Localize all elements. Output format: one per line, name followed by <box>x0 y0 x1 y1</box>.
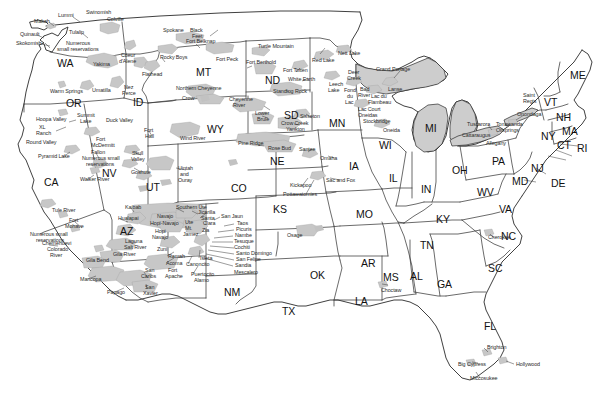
reservation-label: Hualapai <box>118 216 138 222</box>
reservation-label: Fort Belknap <box>186 39 215 45</box>
state-label-tn: TN <box>420 240 434 251</box>
reservation-label: Stockbridge <box>363 119 390 125</box>
state-label-mn: MN <box>329 118 345 129</box>
reservation-label: Onondaga <box>517 112 541 118</box>
reservation-label: Grand Portage <box>376 67 410 73</box>
reservation-label: Rocky Boys <box>160 55 187 61</box>
reservation-label: Flambeau <box>368 100 391 106</box>
state-label-ct: CT <box>557 140 571 151</box>
reservation-label: small reservations <box>57 47 99 53</box>
state-label-ok: OK <box>310 270 325 281</box>
state-label-ks: KS <box>273 204 287 215</box>
reservation-label: Canoncito <box>186 262 209 268</box>
state-label-ma: MA <box>562 126 578 137</box>
reservation-label: Omaha <box>320 156 337 162</box>
state-label-mi: MI <box>425 123 436 134</box>
state-label-ia: IA <box>349 161 359 172</box>
state-label-co: CO <box>231 183 247 194</box>
reservation-label: Miccosukee <box>470 376 497 382</box>
reservation-label: Navajo <box>157 214 173 220</box>
reservation-label: River <box>358 93 370 99</box>
reservation-label: Alamo <box>194 278 209 284</box>
reservation-label: Choctaw <box>381 288 401 294</box>
reservation-label: Salt River <box>124 245 146 251</box>
reservation-label: Warm Springs <box>50 89 83 95</box>
reservation-label: Cattaraugus <box>462 133 490 139</box>
reservation-label: Tulalip <box>69 30 84 36</box>
reservation-label: Standing Rock <box>273 89 307 95</box>
reservation-label: San Jaun <box>221 214 243 220</box>
state-label-tx: TX <box>282 306 295 317</box>
reservation-label: Crow <box>182 96 194 102</box>
reservation-label: Fort Berthold <box>246 60 276 66</box>
reservation-label: Ramah <box>168 254 185 260</box>
state-label-vt: VT <box>544 97 557 108</box>
reservation-label: Fort Peck <box>216 57 238 63</box>
state-label-az: AZ <box>120 226 133 237</box>
state-label-ut: UT <box>146 182 160 193</box>
reservation-label: Northern Cheyenne <box>176 86 221 92</box>
reservation-label: Kaibab <box>125 205 141 211</box>
reservation-label: Perce <box>122 91 136 97</box>
state-label-il: IL <box>389 173 398 184</box>
us-indian-reservations-map: .bd{fill:none;stroke:#3a3a3a;stroke-widt… <box>0 0 616 400</box>
state-label-sc: SC <box>488 263 502 274</box>
state-label-de: DE <box>551 178 565 189</box>
state-label-al: AL <box>410 271 423 282</box>
state-label-in: IN <box>421 184 431 195</box>
state-label-wy: WY <box>207 124 224 135</box>
reservation-label: Hopi-Navajo <box>150 221 179 227</box>
reservation-label: Gila Bend <box>86 258 109 264</box>
state-label-ky: KY <box>436 214 450 225</box>
reservation-label: Tuscarora <box>467 122 490 128</box>
reservation-label: Hollywood <box>516 362 540 368</box>
reservation-label: Ouray <box>178 178 192 184</box>
reservation-label: Papago <box>107 290 125 296</box>
reservation-label: Zuni <box>157 247 167 253</box>
state-label-ar: AR <box>361 258 375 269</box>
state-label-nj: NJ <box>531 163 544 174</box>
reservation-label: Gila River <box>113 252 136 258</box>
reservation-label: Jamez <box>183 232 198 238</box>
map-vector-layer: .bd{fill:none;stroke:#3a3a3a;stroke-widt… <box>0 0 616 400</box>
state-label-wa: WA <box>57 58 73 69</box>
state-label-mo: MO <box>356 209 373 220</box>
reservation-label: River <box>233 103 245 109</box>
reservation-label: Valley <box>131 157 145 163</box>
reservation-label: Red Lake <box>312 58 334 64</box>
reservation-label: Cherokee <box>488 235 511 241</box>
reservation-label: Ranch <box>36 131 51 137</box>
state-label-nd: ND <box>265 75 280 86</box>
state-label-nh: NH <box>556 112 571 123</box>
state-label-oh: OH <box>452 165 468 176</box>
reservation-label: Allegany <box>486 141 506 147</box>
state-label-ri: RI <box>577 143 587 154</box>
reservation-label: Xavier <box>143 291 158 297</box>
reservation-label: Tule River <box>52 208 75 214</box>
reservation-label: Pyramid Lake <box>38 154 70 160</box>
state-label-me: ME <box>570 70 586 81</box>
reservation-label: Duck Valley <box>106 118 133 124</box>
reservation-label: Big Cypress <box>458 362 486 368</box>
state-label-la: LA <box>355 296 368 307</box>
reservation-label: Round Valley <box>26 140 56 146</box>
reservation-label: Clara <box>203 221 215 227</box>
reservation-label: White Earth <box>288 77 315 83</box>
reservation-label: Brule <box>257 117 269 123</box>
state-label-id: ID <box>133 97 143 108</box>
reservation-label: River <box>50 253 62 259</box>
reservation-label: Brighton <box>487 345 506 351</box>
state-label-ms: MS <box>383 272 399 283</box>
reservation-label: Apache <box>165 274 183 280</box>
reservation-label: Navajo <box>152 235 168 241</box>
reservation-label: Oneida <box>383 128 400 134</box>
reservation-label: Hall <box>145 134 154 140</box>
reservation-label: Skokomish <box>16 41 41 47</box>
reservation-label: Creek <box>347 76 361 82</box>
reservation-label: Lac <box>345 100 353 106</box>
reservation-label: Lake <box>328 88 339 94</box>
reservation-label: Regis <box>523 99 536 105</box>
reservation-label: Sandia <box>235 263 251 269</box>
reservation-label: Kickapoo <box>290 183 311 189</box>
reservation-label: Osage <box>287 233 302 239</box>
